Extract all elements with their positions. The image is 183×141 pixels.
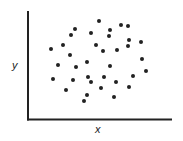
data-point [114, 80, 118, 84]
data-point [89, 31, 93, 35]
data-point [107, 34, 111, 38]
data-point [85, 60, 89, 64]
data-point [68, 53, 72, 57]
y-axis-label: y [12, 60, 18, 71]
data-point [115, 48, 119, 52]
data-point [97, 19, 101, 23]
data-point [108, 28, 112, 32]
data-point [127, 85, 131, 89]
data-point [86, 75, 90, 79]
data-point [140, 57, 144, 61]
data-point [126, 24, 130, 28]
data-point [99, 86, 103, 90]
data-point [144, 69, 148, 73]
data-point [94, 43, 98, 47]
data-point [61, 43, 65, 47]
data-point [82, 99, 86, 103]
data-point [108, 64, 112, 68]
data-point [51, 77, 55, 81]
x-axis-label: x [95, 124, 101, 135]
data-point [127, 38, 131, 42]
data-point [89, 80, 93, 84]
data-point [64, 88, 68, 92]
scatter-plot [0, 0, 183, 141]
data-point [131, 74, 135, 78]
data-point [112, 95, 116, 99]
data-point [73, 27, 77, 31]
data-point [139, 40, 143, 44]
data-point [102, 75, 106, 79]
data-point [49, 47, 53, 51]
data-point [56, 63, 60, 67]
data-point [71, 78, 75, 82]
data-point [74, 65, 78, 69]
data-point [101, 49, 105, 53]
data-point [126, 44, 130, 48]
data-point [119, 23, 123, 27]
data-points [49, 19, 148, 103]
data-point [69, 33, 73, 37]
data-point [85, 93, 89, 97]
